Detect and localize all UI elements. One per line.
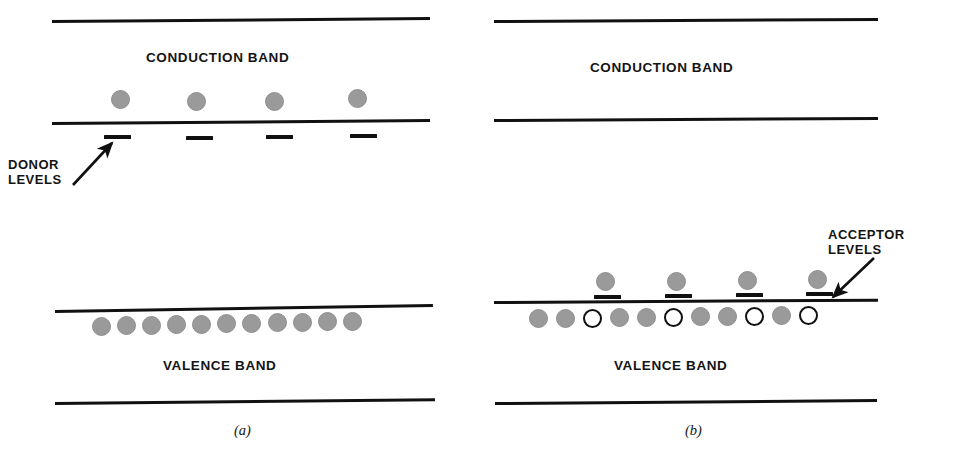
- acceptor-level-bar: [594, 295, 621, 299]
- acceptor-level-bar: [736, 293, 763, 297]
- acceptor-electron: [808, 270, 827, 289]
- acceptor-electron: [738, 271, 757, 290]
- valence-electron: [268, 313, 287, 332]
- acceptor-electron: [596, 272, 615, 291]
- band-diagram-figure: CONDUCTION BAND DONOR LEVELS: [0, 0, 972, 459]
- panel-a-n-type: CONDUCTION BAND DONOR LEVELS: [0, 0, 486, 459]
- panel-b-p-type: CONDUCTION BAND ACCEPTOR LEVELS: [486, 0, 972, 459]
- acceptor-level-bar: [665, 294, 692, 298]
- panel-b-caption: (b): [685, 422, 702, 439]
- valence-electron: [529, 309, 548, 328]
- acceptor-level-bar: [806, 292, 833, 296]
- acceptor-levels-arrow: [486, 0, 972, 459]
- valence-electron: [343, 312, 362, 331]
- valence-electron: [167, 315, 186, 334]
- valence-electron: [192, 315, 211, 334]
- valence-electron: [318, 312, 337, 331]
- valence-electron: [92, 317, 111, 336]
- valence-hole: [745, 307, 764, 326]
- donor-levels-arrow: [0, 0, 486, 459]
- valence-hole: [799, 306, 818, 325]
- valence-electron: [772, 306, 791, 325]
- valence-band-label-b: VALENCE BAND: [614, 358, 727, 373]
- valence-electron: [637, 308, 656, 327]
- valence-hole: [583, 309, 602, 328]
- valence-electron: [293, 313, 312, 332]
- valence-electron: [217, 314, 236, 333]
- valence-electron: [142, 316, 161, 335]
- valence-electron: [718, 307, 737, 326]
- valence-electron: [242, 314, 261, 333]
- acceptor-electron: [667, 272, 686, 291]
- valence-hole: [664, 308, 683, 327]
- valence-band-label-a: VALENCE BAND: [163, 358, 276, 373]
- valence-electron: [610, 308, 629, 327]
- valence-electron: [556, 309, 575, 328]
- valence-electron: [117, 316, 136, 335]
- panel-a-caption: (a): [234, 422, 251, 439]
- valence-electron: [691, 307, 710, 326]
